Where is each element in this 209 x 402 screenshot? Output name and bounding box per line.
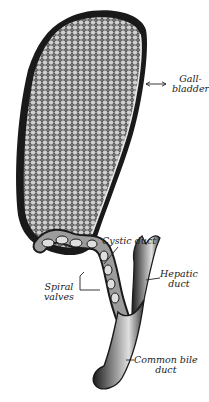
label-common-bile-duct: Common bile duct [134, 355, 198, 375]
label-hepatic-line2: duct [160, 279, 198, 289]
label-spiral-valves: Spiral valves [44, 282, 74, 302]
label-gallbladder: Gall- bladder [172, 74, 209, 94]
common-bile-duct [93, 300, 144, 389]
spiral-leader [80, 272, 100, 290]
gallbladder [16, 10, 147, 255]
label-hepatic-duct: Hepatic duct [160, 269, 198, 289]
label-common-line2: duct [134, 365, 198, 375]
label-cystic-duct-text: Cystic duct [102, 236, 156, 246]
label-cystic-duct: Cystic duct [102, 236, 156, 246]
hepatic-duct [132, 236, 160, 316]
label-gallbladder-line2: bladder [172, 84, 209, 94]
gallbladder-illustration [0, 0, 209, 402]
label-spiral-line2: valves [44, 292, 74, 302]
